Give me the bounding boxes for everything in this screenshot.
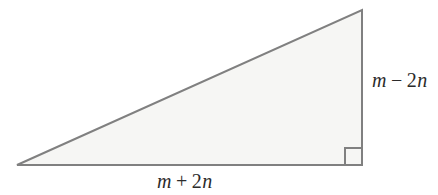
right-triangle-figure: m−2n m+2n [0,0,438,195]
label-vertical-variable-2: n [417,69,428,91]
label-horizontal-coefficient: 2 [192,170,203,192]
label-vertical-coefficient: 2 [407,69,418,91]
label-horizontal-side: m+2n [157,170,213,193]
label-horizontal-operator: + [172,170,192,192]
triangle-graphic [0,0,438,195]
label-horizontal-variable-1: m [157,170,172,192]
label-vertical-operator: − [387,69,407,91]
label-vertical-side: m−2n [372,69,428,92]
label-horizontal-variable-2: n [202,170,213,192]
label-vertical-variable-1: m [372,69,387,91]
triangle-shape [17,10,362,165]
